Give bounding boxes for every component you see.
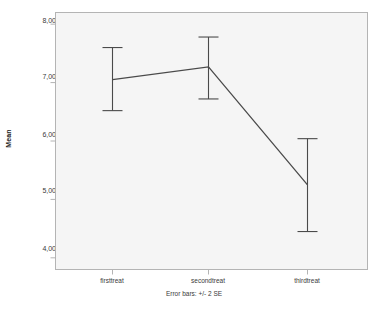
error-bar-chart: Mean 8,00 7,00 6,00 5,00 4,00 firsttreat… (0, 0, 388, 309)
plot-background (56, 13, 368, 270)
plot-canvas (0, 0, 388, 309)
